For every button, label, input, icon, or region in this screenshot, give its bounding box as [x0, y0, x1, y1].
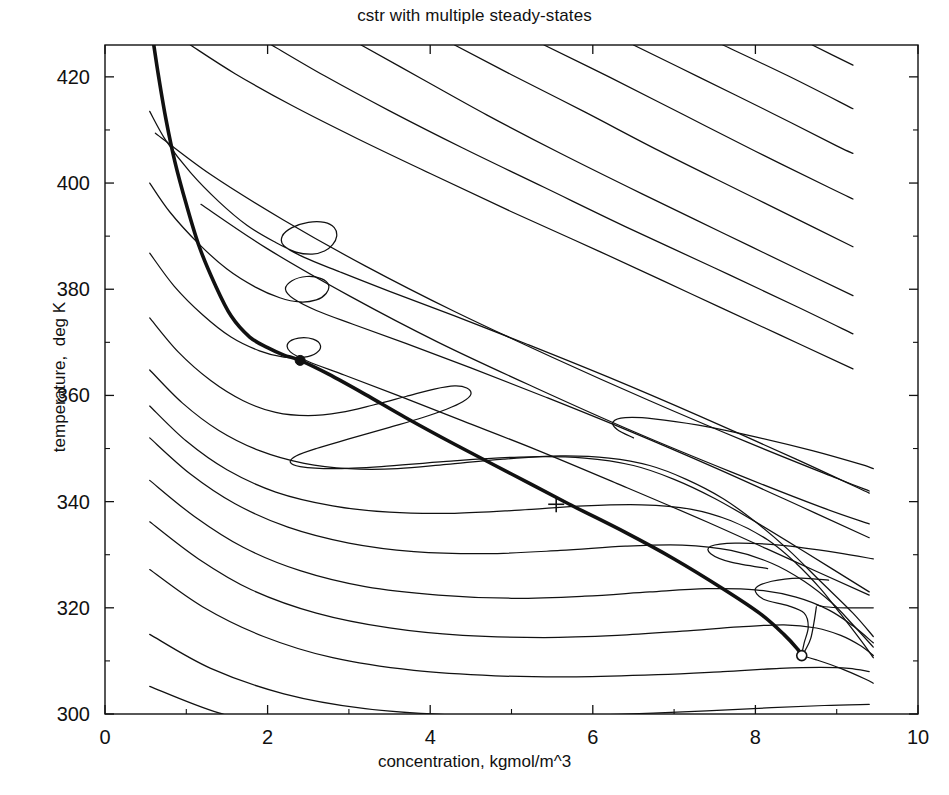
trajectory-curve — [155, 133, 869, 491]
upper-stable-steady-state-marker — [295, 355, 305, 365]
trajectory-curve — [633, 45, 853, 153]
trajectory-curve — [150, 370, 874, 637]
trajectory-curve — [150, 522, 874, 656]
trajectory-curve — [150, 634, 870, 716]
chart-figure: cstr with multiple steady-states 0246810… — [0, 0, 949, 795]
trajectory-curve — [613, 417, 874, 468]
trajectory-curve — [150, 318, 870, 592]
trajectory-curve — [802, 656, 874, 684]
trajectory-group — [150, 45, 874, 743]
lower-stable-steady-state-marker — [797, 651, 807, 661]
y-tick-label: 420 — [28, 65, 90, 88]
x-tick-label: 10 — [907, 726, 929, 749]
trajectory-curve — [150, 570, 870, 677]
trajectory-curve — [802, 607, 817, 656]
y-tick-label: 400 — [28, 172, 90, 195]
trajectory-curve — [272, 45, 853, 334]
trajectory-curve — [544, 45, 853, 199]
phase-plane-plot — [0, 0, 949, 795]
trajectory-curve — [150, 406, 874, 658]
trajectory-curve — [812, 45, 853, 65]
plot-frame — [105, 45, 918, 714]
separatrix-curve — [154, 45, 802, 656]
trajectory-curve — [455, 45, 853, 247]
x-tick-label: 8 — [750, 726, 761, 749]
x-tick-label: 6 — [587, 726, 598, 749]
x-tick-label: 0 — [99, 726, 110, 749]
trajectory-curve — [708, 543, 873, 569]
x-axis-label: concentration, kgmol/m^3 — [0, 752, 949, 772]
trajectory-curve — [361, 45, 853, 296]
y-tick-label: 300 — [28, 703, 90, 726]
axes-frame-group — [105, 45, 918, 714]
y-axis-label: temperature, deg K — [50, 247, 70, 507]
x-tick-label: 4 — [425, 726, 436, 749]
trajectory-curve — [150, 111, 870, 493]
x-tick-label: 2 — [262, 726, 273, 749]
trajectory-curve — [190, 45, 853, 369]
y-tick-label: 320 — [28, 596, 90, 619]
